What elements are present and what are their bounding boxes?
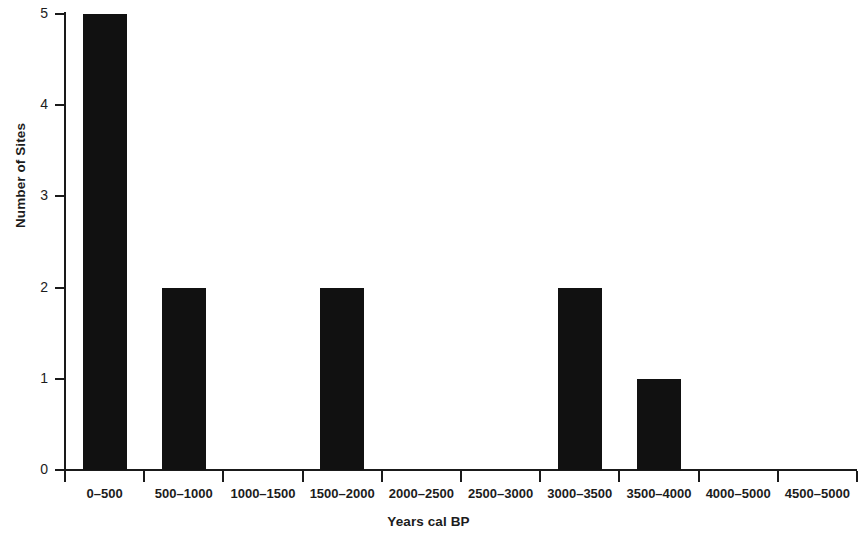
x-axis-tick-label: 2500–3000 <box>461 487 540 501</box>
x-axis-tick-label: 3000–3500 <box>540 487 619 501</box>
x-axis-tick-label: 1500–2000 <box>303 487 382 501</box>
x-axis-tick-label: 1000–1500 <box>223 487 302 501</box>
x-axis-tick-label: 3500–4000 <box>619 487 698 501</box>
y-axis-title: Number of Sites <box>13 96 28 256</box>
bar <box>637 379 681 470</box>
x-axis-tick <box>302 471 304 482</box>
bar <box>320 288 364 470</box>
x-axis-tick-label: 4000–5000 <box>699 487 778 501</box>
y-axis-tick <box>55 378 66 380</box>
y-axis-tick <box>55 13 66 15</box>
x-axis-tick-label: 0–500 <box>65 487 144 501</box>
x-axis-tick <box>698 471 700 482</box>
x-axis-tick <box>143 471 145 482</box>
y-axis-tick-label: 3 <box>18 188 48 202</box>
x-axis-tick <box>618 471 620 482</box>
x-axis-tick-label: 2000–2500 <box>382 487 461 501</box>
bar <box>558 288 602 470</box>
y-axis-tick-label: 4 <box>18 97 48 111</box>
x-axis-title: Years cal BP <box>0 514 857 529</box>
x-axis-tick-label: 500–1000 <box>144 487 223 501</box>
y-axis-tick-label: 5 <box>18 6 48 20</box>
x-axis-tick <box>460 471 462 482</box>
x-axis-tick <box>539 471 541 482</box>
bar <box>162 288 206 470</box>
x-axis-tick <box>381 471 383 482</box>
x-axis-tick <box>777 471 779 482</box>
x-axis-tick <box>222 471 224 482</box>
y-axis-tick-label: 1 <box>18 371 48 385</box>
x-axis-tick-label: 4500–5000 <box>778 487 857 501</box>
y-axis-tick <box>55 195 66 197</box>
y-axis-tick-label: 0 <box>18 462 48 476</box>
y-axis-tick-label: 2 <box>18 280 48 294</box>
x-axis-tick <box>64 471 66 482</box>
y-axis-line <box>64 12 66 472</box>
y-axis-tick <box>55 104 66 106</box>
bar <box>83 14 127 470</box>
y-axis-tick <box>55 287 66 289</box>
